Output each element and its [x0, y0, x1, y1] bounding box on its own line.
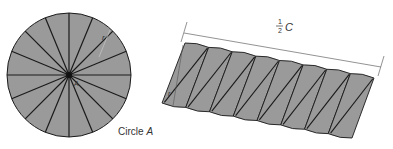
- half-circumference-label: 1 2 C: [276, 18, 293, 34]
- circle-a: r A: [7, 13, 131, 137]
- circle-caption: CircleA: [118, 126, 154, 137]
- circle-caption-letter: A: [146, 126, 154, 137]
- dimension-tick-right: [378, 56, 384, 76]
- fraction-numerator: 1: [278, 18, 282, 25]
- circle-center-point: [66, 72, 72, 78]
- fraction-denominator: 2: [278, 27, 282, 34]
- diagram-canvas: r A CircleA 1 2 C r: [0, 0, 393, 149]
- rearranged-sectors: [162, 43, 374, 138]
- circle-radius-label: r: [102, 33, 105, 42]
- circle-center-label: A: [73, 80, 79, 87]
- dimension-tick-left: [181, 22, 187, 42]
- circumference-variable: C: [285, 21, 293, 33]
- circle-caption-name: Circle: [118, 126, 144, 137]
